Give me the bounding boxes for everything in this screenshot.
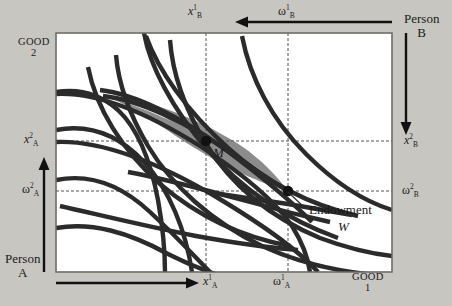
endowment-letter-label: W bbox=[338, 220, 349, 234]
edgeworth-box-figure: GOOD 2 GOOD 1 Person A Person B x1A x2A … bbox=[0, 0, 452, 306]
axis-label-x-b-1: x1B bbox=[188, 4, 202, 20]
person-b-label: Person B bbox=[404, 12, 439, 39]
endowment-label: Endowment bbox=[309, 203, 372, 217]
axis-label-x-a-2: x2A bbox=[24, 132, 38, 148]
axis-label-x-a-1: x1A bbox=[203, 274, 217, 290]
axis-label-omega-b-1: ω1B bbox=[278, 4, 295, 20]
good-1-label: GOOD 1 bbox=[352, 271, 384, 293]
axis-label-omega-a-1: ω1A bbox=[273, 274, 290, 290]
person-a-label: Person A bbox=[5, 252, 40, 279]
point-w-marker bbox=[283, 186, 293, 196]
axis-label-x-b-2: x2B bbox=[404, 133, 418, 149]
good-2-label: GOOD 2 bbox=[18, 36, 50, 58]
point-m-marker bbox=[201, 136, 211, 146]
axis-label-omega-b-2: ω2B bbox=[402, 183, 419, 199]
axis-label-omega-a-2: ω2A bbox=[22, 182, 39, 198]
point-m-label: M bbox=[213, 146, 224, 160]
edgeworth-box-svg bbox=[0, 0, 452, 306]
